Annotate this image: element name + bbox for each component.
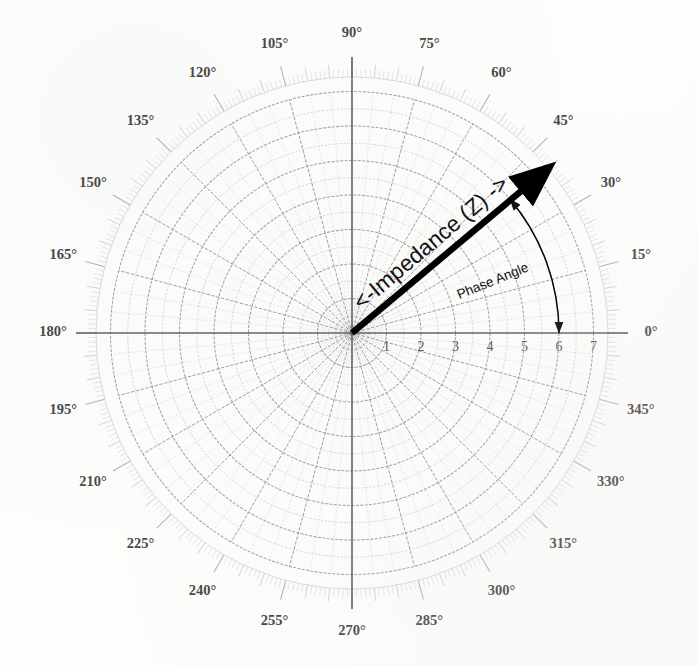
impedance-vector-label: <-Impedance (Z) -> [349, 171, 514, 315]
angle-tick-label: 315° [550, 535, 578, 551]
angle-tick-label: 30° [601, 174, 622, 190]
angle-tick-label: 90° [342, 24, 363, 40]
angle-tick-label: 225° [127, 535, 155, 551]
angle-tick-label: 75° [419, 35, 440, 51]
angle-tick-label: 285° [416, 612, 444, 628]
radial-tick-labels: 1234567 [383, 339, 597, 354]
radial-tick-label: 4 [487, 339, 494, 354]
angle-tick-label: 300° [488, 582, 516, 598]
radial-tick-label: 1 [383, 339, 390, 354]
angle-tick-label: 240° [189, 582, 217, 598]
angle-tick-label: 60° [491, 64, 512, 80]
angle-tick-label: 345° [627, 401, 655, 417]
radial-tick-label: 7 [590, 339, 597, 354]
angle-tick-label: 45° [553, 112, 574, 128]
polar-chart-figure: 0°15°30°45°60°75°90°105°120°135°150°165°… [0, 0, 697, 666]
angle-tick-label: 105° [261, 35, 289, 51]
polar-plot-svg: 0°15°30°45°60°75°90°105°120°135°150°165°… [0, 0, 697, 666]
angle-tick-label: 270° [338, 622, 366, 638]
radial-tick-label: 2 [418, 339, 425, 354]
angle-tick-label: 150° [79, 174, 107, 190]
angle-tick-label: 135° [127, 112, 155, 128]
angle-tick-label: 195° [49, 401, 77, 417]
angle-tick-label: 15° [631, 246, 652, 262]
angle-tick-label: 330° [597, 473, 625, 489]
radial-tick-label: 3 [452, 339, 459, 354]
angle-tick-label: 165° [49, 246, 77, 262]
angle-tick-label: 120° [189, 64, 217, 80]
angle-tick-label: 180° [39, 323, 67, 339]
angle-tick-label: 210° [79, 473, 107, 489]
radial-tick-label: 5 [521, 339, 528, 354]
angle-tick-label: 255° [261, 612, 289, 628]
phase-angle-label: Phase Angle [455, 260, 531, 302]
radial-tick-label: 6 [556, 339, 563, 354]
angle-tick-label: 0° [644, 323, 657, 339]
